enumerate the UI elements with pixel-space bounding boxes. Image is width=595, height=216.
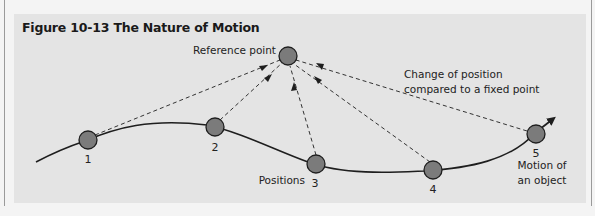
motion-path	[36, 123, 534, 173]
motion-label-line2: an object	[518, 174, 567, 186]
position-label-4: 4	[430, 183, 437, 196]
position-circle-3	[307, 155, 325, 173]
motion-diagram: 1 2 3 4 5 Reference point Change of posi…	[0, 0, 595, 216]
position-label-2: 2	[212, 141, 219, 154]
change-of-position-label-line1: Change of position	[404, 68, 503, 80]
position-circle-2	[206, 118, 224, 136]
reference-point-circle	[279, 47, 297, 65]
dashed-line-3	[290, 66, 316, 155]
position-circle-5	[527, 125, 545, 143]
arrowhead-1	[259, 65, 268, 71]
position-label-3: 3	[312, 177, 319, 190]
positions-label: Positions	[259, 174, 305, 186]
motion-label-line1: Motion of	[517, 159, 566, 171]
position-circle-1	[79, 131, 97, 149]
position-circle-4	[424, 161, 442, 179]
position-label-1: 1	[85, 153, 92, 166]
reference-point-label: Reference point	[193, 44, 276, 56]
dashed-arrowheads	[259, 63, 324, 91]
change-of-position-label-line2: compared to a fixed point	[404, 83, 539, 95]
